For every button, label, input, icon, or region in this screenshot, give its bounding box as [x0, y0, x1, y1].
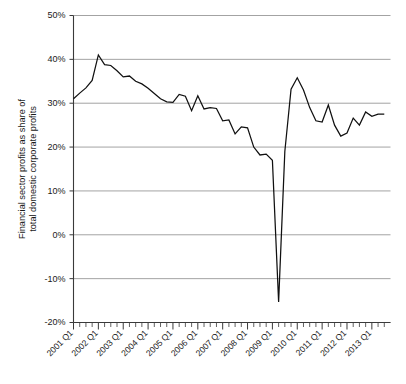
y-axis-tick-label: 30% — [47, 98, 65, 108]
line-chart: 50%40%30%20%10%0%-10%-20% 2001 Q12002 Q1… — [0, 0, 406, 384]
y-axis-title: Financial sector profits as share oftota… — [17, 99, 38, 239]
chart-container: 50%40%30%20%10%0%-10%-20% 2001 Q12002 Q1… — [0, 0, 406, 384]
y-axis-tick-label: 50% — [47, 10, 65, 20]
y-axis-tick-label: 0% — [52, 230, 65, 240]
y-axis-tick-label: 40% — [47, 54, 65, 64]
y-axis-tick-label: 20% — [47, 142, 65, 152]
y-axis-tick-label: -20% — [44, 317, 65, 327]
y-axis-tick-label: -10% — [44, 274, 65, 284]
y-axis-title-line: total domestic corporate profits — [28, 106, 38, 232]
y-axis-tick-label: 10% — [47, 186, 65, 196]
y-axis-title-line: Financial sector profits as share of — [17, 99, 27, 239]
